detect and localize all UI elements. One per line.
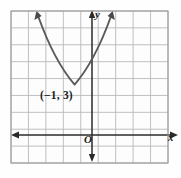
origin-label: O (84, 133, 92, 145)
x-axis-label: x (168, 131, 174, 143)
vertex-coordinate-label: (−1, 3) (40, 89, 73, 101)
y-axis-label: y (95, 8, 100, 20)
graph-figure: (−1, 3) y x O (0, 0, 181, 178)
coordinate-plane-svg (0, 0, 181, 178)
